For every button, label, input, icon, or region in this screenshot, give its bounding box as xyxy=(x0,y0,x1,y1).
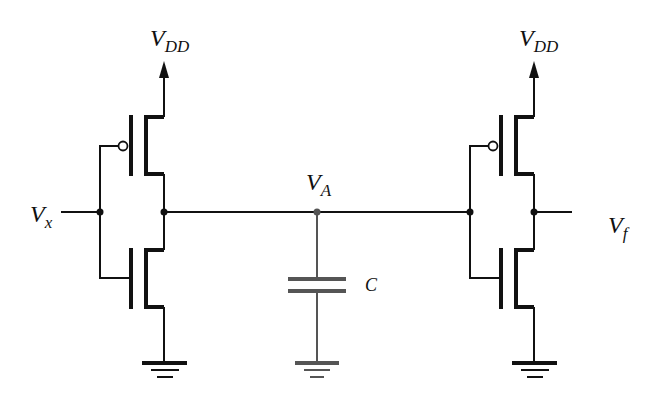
junction-dot xyxy=(467,209,474,216)
pmos-transistor-left xyxy=(100,115,164,212)
inverter-left xyxy=(61,61,187,377)
ground-icon xyxy=(142,363,187,377)
inverter-right xyxy=(467,61,573,377)
nmos-transistor-left xyxy=(100,212,164,309)
pmos-transistor-right xyxy=(470,115,534,212)
nmos-transistor-right xyxy=(470,212,534,309)
label-va: VA xyxy=(306,170,331,199)
junction-dot xyxy=(97,209,104,216)
ground-icon xyxy=(512,363,557,377)
inversion-bubble-icon xyxy=(489,142,498,151)
inversion-bubble-icon xyxy=(119,142,128,151)
label-vf: Vf xyxy=(608,213,627,242)
circuit-schematic xyxy=(0,0,654,401)
capacitor-c xyxy=(288,212,346,377)
label-vx: Vx xyxy=(30,202,52,231)
vdd-arrow-icon xyxy=(529,61,539,117)
vdd-arrow-icon xyxy=(159,61,169,117)
ground-icon xyxy=(295,363,339,377)
label-vdd-right: VDD xyxy=(519,26,558,55)
label-capacitor: C xyxy=(365,276,377,294)
junction-dot xyxy=(531,209,538,216)
label-vdd-left: VDD xyxy=(150,26,189,55)
